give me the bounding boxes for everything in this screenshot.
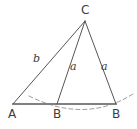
vertex-label-b-right: B xyxy=(112,108,120,120)
side-label-b: b xyxy=(33,53,40,64)
vertex-label-c: C xyxy=(81,4,89,16)
side-label-a-right: a xyxy=(101,61,108,72)
side-label-a-left: a xyxy=(70,61,77,72)
vertex-label-b-middle: B xyxy=(53,108,61,120)
geometry-figure: C A B B b a a xyxy=(0,0,137,129)
vertex-label-a: A xyxy=(8,108,16,120)
